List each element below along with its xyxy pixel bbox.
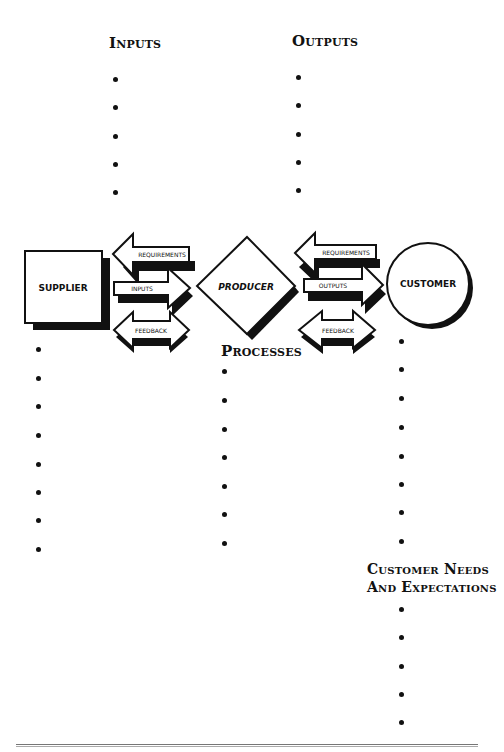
- bullet: [399, 720, 404, 725]
- bullet: [36, 462, 41, 467]
- requirements-arrow-label: REQUIREMENTS: [138, 251, 186, 258]
- bullet: [399, 664, 404, 669]
- bullet: [296, 132, 301, 137]
- bullet: [222, 455, 227, 460]
- bullet: [399, 539, 404, 544]
- bullet: [399, 454, 404, 459]
- requirements-arrow-label: REQUIREMENTS: [322, 249, 370, 256]
- feedback-arrow-left-group: FEEDBACK: [114, 312, 189, 353]
- feedback-arrow-label: FEEDBACK: [322, 327, 355, 334]
- bullet: [222, 398, 227, 403]
- supplier-box: SUPPLIER: [25, 251, 110, 330]
- requirements-arrow-right-group: REQUIREMENTS: [295, 233, 380, 286]
- bullet: [399, 425, 404, 430]
- bullet: [222, 484, 227, 489]
- bullet: [399, 510, 404, 515]
- bullet: [36, 433, 41, 438]
- processes-heading: Processes: [221, 342, 302, 361]
- bullet: [222, 427, 227, 432]
- bullet: [296, 160, 301, 165]
- producer-label: PRODUCER: [218, 282, 274, 292]
- bullet: [36, 490, 41, 495]
- bullet: [36, 518, 41, 523]
- customer-needs-heading-line1: Customer Needs: [367, 560, 489, 579]
- bullet: [399, 367, 404, 372]
- bullet: [399, 607, 404, 612]
- feedback-arrow-label: FEEDBACK: [135, 327, 168, 334]
- inputs-arrow: INPUTS: [114, 268, 193, 316]
- producer-diamond: PRODUCER: [197, 237, 299, 340]
- bullet: [113, 77, 118, 82]
- requirements-arrow-left-group: REQUIREMENTS: [113, 234, 195, 285]
- feedback-arrow-right-group: FEEDBACK: [299, 311, 375, 354]
- bullet: [399, 635, 404, 640]
- bullet: [222, 512, 227, 517]
- bullet: [36, 347, 41, 352]
- bullet: [113, 162, 118, 167]
- bullet: [222, 369, 227, 374]
- outputs-heading: Outputs: [292, 32, 358, 51]
- bullet: [399, 396, 404, 401]
- supply-chain-diagram: SUPPLIER REQUIREMENTS INPUTS FEEDBACK PR…: [0, 0, 504, 752]
- bullet: [296, 188, 301, 193]
- customer-circle: CUSTOMER: [387, 243, 473, 329]
- bottom-rule-top: [16, 744, 478, 745]
- bottom-rule-bottom: [16, 746, 478, 747]
- customer-needs-heading-line2: And Expectations: [367, 578, 497, 597]
- bullet: [222, 541, 227, 546]
- outputs-arrow-label: OUTPUTS: [319, 282, 347, 289]
- bullet: [399, 692, 404, 697]
- bullet: [296, 75, 301, 80]
- customer-label: CUSTOMER: [400, 279, 456, 289]
- supplier-label: SUPPLIER: [38, 283, 87, 293]
- bullet: [399, 339, 404, 344]
- bullet: [36, 376, 41, 381]
- bullet: [36, 404, 41, 409]
- bullet: [399, 482, 404, 487]
- bullet: [296, 103, 301, 108]
- bullet: [113, 190, 118, 195]
- bullet: [36, 547, 41, 552]
- inputs-heading: Inputs: [109, 34, 161, 53]
- bullet: [113, 105, 118, 110]
- bullet: [113, 134, 118, 139]
- outputs-arrow: OUTPUTS: [304, 264, 386, 314]
- inputs-arrow-label: INPUTS: [131, 285, 153, 292]
